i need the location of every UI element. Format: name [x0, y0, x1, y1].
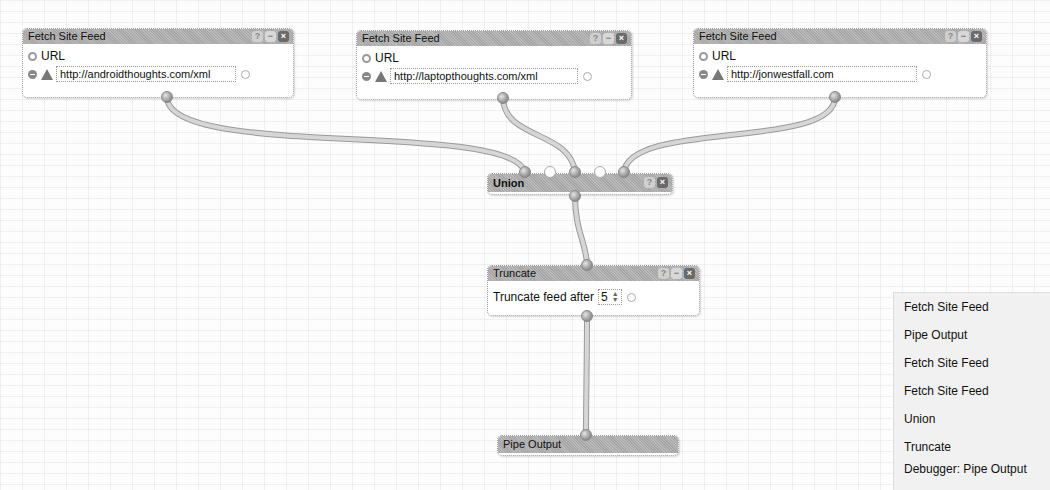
module-header[interactable]: Fetch Site Feed ? − × — [23, 29, 293, 44]
truncate-count-stepper[interactable]: 5 ▲▼ — [598, 289, 622, 305]
minimize-icon[interactable]: − — [603, 33, 614, 44]
module-header[interactable]: Fetch Site Feed ? − × — [357, 31, 631, 46]
warning-icon — [375, 71, 387, 82]
union-input-terminal-3[interactable] — [569, 166, 581, 178]
module-list-item[interactable]: Fetch Site Feed — [894, 293, 1050, 321]
fetch-site-feed-module-2[interactable]: Fetch Site Feed ? − × URL http://laptopt… — [356, 30, 632, 100]
minimize-icon[interactable]: − — [958, 31, 969, 42]
url-terminal-icon[interactable] — [362, 54, 371, 63]
url-input-terminal-icon[interactable] — [241, 70, 250, 79]
url-input-terminal-icon[interactable] — [922, 70, 931, 79]
module-list-item[interactable]: Fetch Site Feed — [894, 349, 1050, 377]
module-title: Union — [493, 177, 524, 189]
module-list-panel: Fetch Site Feed Pipe Output Fetch Site F… — [893, 292, 1050, 490]
truncate-label: Truncate feed after — [493, 290, 594, 304]
warning-icon — [712, 69, 724, 80]
stepper-arrows-icon[interactable]: ▲▼ — [612, 291, 619, 303]
url-input[interactable]: http://androidthoughts.com/xml — [56, 66, 236, 82]
url-input[interactable]: http://laptopthoughts.com/xml — [390, 68, 578, 84]
output-input-terminal[interactable] — [580, 429, 592, 441]
union-output-terminal[interactable] — [569, 190, 581, 202]
help-icon[interactable]: ? — [252, 31, 263, 42]
minimize-icon[interactable]: − — [671, 268, 682, 279]
truncate-input-terminal[interactable] — [581, 259, 593, 271]
fetch-site-feed-module-3[interactable]: Fetch Site Feed ? − × URL http://jonwest… — [693, 28, 987, 98]
module-header[interactable]: Truncate ? − × — [488, 266, 699, 281]
url-terminal-icon[interactable] — [28, 52, 37, 61]
module-list-item[interactable]: Pipe Output — [894, 321, 1050, 349]
union-input-terminal-2[interactable] — [544, 166, 556, 178]
union-input-terminal-1[interactable] — [519, 166, 531, 178]
module-header[interactable]: Union ? × — [488, 174, 672, 192]
module-header[interactable]: Fetch Site Feed ? − × — [694, 29, 986, 44]
url-label: URL — [712, 49, 736, 63]
help-icon[interactable]: ? — [658, 268, 669, 279]
help-icon[interactable]: ? — [590, 33, 601, 44]
union-input-terminal-5[interactable] — [618, 166, 630, 178]
close-icon[interactable]: × — [971, 31, 982, 42]
module-list-item[interactable]: Truncate — [894, 433, 1050, 461]
minimize-icon[interactable]: − — [265, 31, 276, 42]
truncate-module[interactable]: Truncate ? − × Truncate feed after 5 ▲▼ — [487, 265, 700, 316]
close-icon[interactable]: × — [278, 31, 289, 42]
url-input-terminal-icon[interactable] — [583, 72, 592, 81]
close-icon[interactable]: × — [616, 33, 627, 44]
help-icon[interactable]: ? — [644, 177, 655, 188]
url-input[interactable]: http://jonwestfall.com — [727, 66, 917, 82]
union-input-terminal-4[interactable] — [594, 166, 606, 178]
truncate-output-terminal[interactable] — [581, 310, 593, 322]
url-label: URL — [375, 51, 399, 65]
close-icon[interactable]: × — [657, 177, 668, 188]
feed3-output-terminal[interactable] — [829, 91, 841, 103]
module-title: Fetch Site Feed — [362, 32, 440, 44]
feed2-output-terminal[interactable] — [497, 92, 509, 104]
module-title: Fetch Site Feed — [699, 30, 777, 42]
module-title: Fetch Site Feed — [28, 30, 106, 42]
module-title: Pipe Output — [503, 438, 561, 450]
fetch-site-feed-module-1[interactable]: Fetch Site Feed ? − × URL http://android… — [22, 28, 294, 98]
module-list-item[interactable]: Union — [894, 405, 1050, 433]
url-label: URL — [41, 49, 65, 63]
warning-icon — [41, 69, 53, 80]
module-title: Truncate — [493, 267, 536, 279]
help-icon[interactable]: ? — [945, 31, 956, 42]
remove-url-icon[interactable] — [699, 70, 708, 79]
module-list-item[interactable]: Fetch Site Feed — [894, 377, 1050, 405]
remove-url-icon[interactable] — [28, 70, 37, 79]
remove-url-icon[interactable] — [362, 72, 371, 81]
module-list-item[interactable]: Debugger: Pipe Output — [894, 461, 1050, 477]
feed1-output-terminal[interactable] — [161, 91, 173, 103]
url-terminal-icon[interactable] — [699, 52, 708, 61]
count-input-terminal-icon[interactable] — [627, 293, 636, 302]
close-icon[interactable]: × — [684, 268, 695, 279]
